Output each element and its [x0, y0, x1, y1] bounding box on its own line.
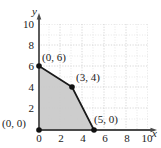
x-tick-label-10: 10 — [142, 133, 153, 144]
annotation-vertex-0-0: (0, 0) — [2, 118, 26, 129]
y-axis-name: y — [32, 6, 37, 17]
y-tick-label-4: 4 — [12, 82, 34, 93]
annotation-vertex-5-0: (5, 0) — [94, 114, 118, 125]
coordinate-plane-figure: 10 8 6 4 2 0 2 4 6 8 10 y x (0, 6) (3, 4… — [0, 0, 161, 148]
annotation-vertex-0-6: (0, 6) — [42, 52, 66, 63]
y-tick-label-2: 2 — [12, 103, 34, 114]
x-tick-label-2: 2 — [58, 133, 64, 144]
x-tick-label-0: 0 — [36, 133, 42, 144]
x-tick-label-4: 4 — [80, 133, 86, 144]
vertex-marker-3-4 — [69, 84, 75, 90]
x-tick-label-8: 8 — [124, 133, 130, 144]
y-tick-label-8: 8 — [12, 40, 34, 51]
x-axis-name: x — [152, 128, 157, 139]
y-tick-label-10: 10 — [12, 19, 34, 30]
y-tick-label-6: 6 — [12, 61, 34, 72]
annotation-vertex-3-4: (3, 4) — [76, 72, 100, 83]
vertex-marker-5-0 — [91, 127, 97, 133]
x-tick-label-6: 6 — [102, 133, 108, 144]
vertex-marker-0-6 — [36, 63, 42, 69]
